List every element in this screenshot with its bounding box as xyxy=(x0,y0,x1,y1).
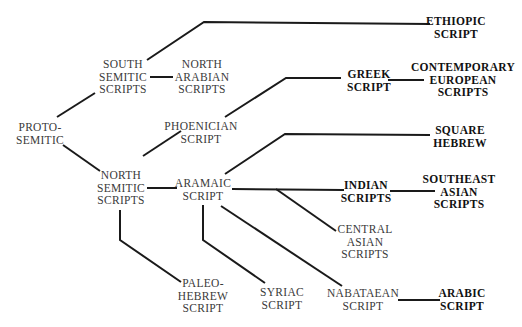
node-nabataean: NABATAEANSCRIPT xyxy=(327,287,399,312)
node-paleo-hebrew: PALEO-HEBREWSCRIPT xyxy=(178,277,228,315)
node-north-semitic: NORTHSEMITICSCRIPTS xyxy=(97,169,145,207)
node-aramaic: ARAMAICSCRIPT xyxy=(175,177,231,202)
node-square-hebrew: SQUAREHEBREW xyxy=(433,124,487,149)
node-indian: INDIANSCRIPTS xyxy=(341,179,392,204)
node-label-line: SCRIPT xyxy=(327,299,399,312)
node-label-line: SCRIPT xyxy=(164,132,237,145)
node-label-line: SEMITIC xyxy=(99,71,147,84)
node-label-line: SCRIPTS xyxy=(337,248,392,261)
node-label-line: SCRIPT xyxy=(426,27,486,40)
node-north-arabian: NORTHARABIANSCRIPTS xyxy=(175,58,230,96)
node-label-line: SCRIPTS xyxy=(99,83,147,96)
node-central-asian: CENTRALASIANSCRIPTS xyxy=(337,223,392,261)
node-label-line: ASIAN xyxy=(422,186,495,199)
edge-layer xyxy=(0,0,522,327)
node-syriac: SYRIACSCRIPT xyxy=(260,286,304,311)
node-label-line: ARAMAIC xyxy=(175,177,231,190)
node-label-line: EUROPEAN xyxy=(411,74,515,87)
node-label-line: PALEO- xyxy=(178,277,228,290)
node-proto-semitic: PROTO-SEMITIC xyxy=(16,121,64,146)
node-label-line: NORTH xyxy=(175,58,230,71)
node-label-line: SCRIPTS xyxy=(422,198,495,211)
node-label-line: SCRIPT xyxy=(178,302,228,315)
edge-aramaic-to-indian xyxy=(232,189,344,190)
node-label-line: SEMITIC xyxy=(97,182,145,195)
node-label-line: HEBREW xyxy=(433,136,487,149)
edge-aramaic-to-syriac xyxy=(203,205,265,283)
node-arabic: ARABICSCRIPT xyxy=(438,287,485,312)
node-label-line: SCRIPT xyxy=(175,189,231,202)
edge-phoenician-to-greek xyxy=(225,78,341,117)
node-label-line: SCRIPTS xyxy=(97,194,145,207)
node-label-line: PROTO- xyxy=(16,121,64,134)
node-label-line: SYRIAC xyxy=(260,286,304,299)
node-south-semitic: SOUTHSEMITICSCRIPTS xyxy=(99,58,147,96)
node-label-line: ETHIOPIC xyxy=(426,15,486,28)
edge-south-semitic-to-ethiopic xyxy=(147,22,430,60)
node-label-line: CONTEMPORARY xyxy=(411,61,515,74)
node-contemporary-european: CONTEMPORARYEUROPEANSCRIPTS xyxy=(411,61,515,99)
node-greek: GREEKSCRIPT xyxy=(347,68,391,93)
node-label-line: SCRIPT xyxy=(260,298,304,311)
edge-proto-semitic-to-north-semitic xyxy=(63,145,100,171)
node-phoenician: PHOENICIANSCRIPT xyxy=(164,120,237,145)
node-label-line: INDIAN xyxy=(341,179,392,192)
node-label-line: CENTRAL xyxy=(337,223,392,236)
node-label-line: SCRIPTS xyxy=(341,191,392,204)
node-label-line: SCRIPTS xyxy=(411,86,515,99)
node-label-line: HEBREW xyxy=(178,290,228,303)
node-southeast-asian: SOUTHEASTASIANSCRIPTS xyxy=(422,173,495,211)
node-ethiopic: ETHIOPICSCRIPT xyxy=(426,15,486,40)
node-label-line: SEMITIC xyxy=(16,133,64,146)
node-label-line: GREEK xyxy=(347,68,391,81)
node-label-line: SCRIPTS xyxy=(175,83,230,96)
node-label-line: SCRIPT xyxy=(347,80,391,93)
node-label-line: SOUTH xyxy=(99,58,147,71)
edge-proto-semitic-to-south-semitic xyxy=(57,93,95,117)
node-label-line: SOUTHEAST xyxy=(422,173,495,186)
node-label-line: PHOENICIAN xyxy=(164,120,237,133)
edge-aramaic-to-central-asian xyxy=(276,189,336,231)
node-label-line: NABATAEAN xyxy=(327,287,399,300)
node-label-line: NORTH xyxy=(97,169,145,182)
edge-aramaic-to-nabataean xyxy=(221,206,342,286)
edge-north-semitic-to-paleo-hebrew xyxy=(120,210,181,282)
edge-aramaic-to-square-hebrew xyxy=(225,134,430,174)
node-label-line: ASIAN xyxy=(337,236,392,249)
node-label-line: SQUARE xyxy=(433,124,487,137)
node-label-line: ARABIAN xyxy=(175,71,230,84)
node-label-line: ARABIC xyxy=(438,287,485,300)
node-label-line: SCRIPT xyxy=(438,299,485,312)
